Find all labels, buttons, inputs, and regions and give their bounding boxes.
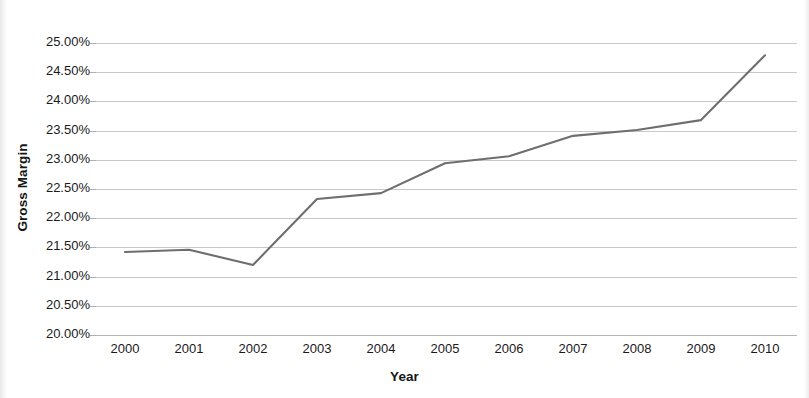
x-tick-label: 2002 (223, 341, 283, 356)
gridline-horizontal (96, 247, 797, 248)
y-tick-label: 25.00% (20, 34, 90, 49)
x-tick-label: 2010 (735, 341, 795, 356)
y-tick-label: 20.00% (20, 326, 90, 341)
gridline-horizontal (96, 43, 797, 44)
x-tick-label: 2009 (671, 341, 731, 356)
x-axis-title: Year (0, 369, 809, 384)
gross-margin-line-chart: Gross Margin Year 25.00%24.50%24.00%23.5… (0, 0, 809, 398)
x-tick-label: 2001 (159, 341, 219, 356)
gridline-horizontal (96, 306, 797, 307)
x-tick-label: 2006 (479, 341, 539, 356)
y-tick-label: 23.50% (20, 122, 90, 137)
y-tick-label: 23.00% (20, 151, 90, 166)
y-tick-label: 21.00% (20, 268, 90, 283)
gridline-horizontal (96, 160, 797, 161)
x-tick-label: 2003 (287, 341, 347, 356)
gridline-horizontal (96, 335, 797, 336)
y-tick-label: 24.50% (20, 63, 90, 78)
gridline-horizontal (96, 277, 797, 278)
x-tick-label: 2008 (607, 341, 667, 356)
y-tick-label: 24.00% (20, 92, 90, 107)
right-edge-artifact (804, 0, 809, 398)
gridline-horizontal (96, 72, 797, 73)
y-tick-label: 22.00% (20, 209, 90, 224)
x-tick-label: 2007 (543, 341, 603, 356)
left-edge-artifact (0, 0, 7, 398)
gridline-horizontal (96, 218, 797, 219)
x-tick-label: 2000 (95, 341, 155, 356)
gridline-horizontal (96, 101, 797, 102)
gridline-horizontal (96, 189, 797, 190)
x-tick-label: 2005 (415, 341, 475, 356)
y-tick-label: 20.50% (20, 297, 90, 312)
y-tick-label: 21.50% (20, 238, 90, 253)
x-tick-label: 2004 (351, 341, 411, 356)
y-tick-label: 22.50% (20, 180, 90, 195)
gridline-horizontal (96, 131, 797, 132)
plot-area (96, 43, 797, 335)
